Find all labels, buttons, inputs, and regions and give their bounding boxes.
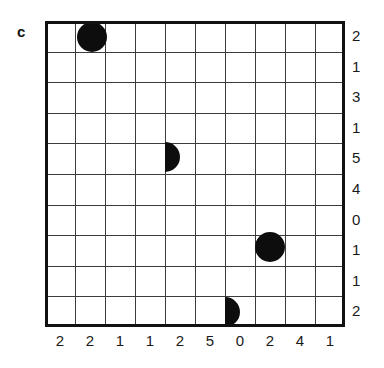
row-label: 1: [352, 235, 374, 266]
figure-panel: c 2131540112 2211250241: [0, 0, 384, 368]
column-label: 2: [255, 330, 285, 352]
column-label: 1: [315, 330, 345, 352]
row-label: 2: [352, 296, 374, 327]
column-label: 2: [165, 330, 195, 352]
panel-letter-label: c: [17, 24, 37, 40]
row-label-column: 2131540112: [352, 21, 376, 327]
row-label: 3: [352, 82, 374, 113]
row-label: 5: [352, 143, 374, 174]
column-label: 2: [75, 330, 105, 352]
column-label-row: 2211250241: [45, 330, 345, 352]
column-label: 2: [45, 330, 75, 352]
grid-marker-circle: [77, 22, 107, 52]
row-label: 4: [352, 174, 374, 205]
row-label: 1: [352, 52, 374, 83]
grid-marker-circle: [255, 232, 285, 262]
row-label: 1: [352, 113, 374, 144]
row-label: 2: [352, 21, 374, 52]
row-label: 1: [352, 266, 374, 297]
column-label: 1: [105, 330, 135, 352]
grid-plot: [45, 21, 345, 327]
column-label: 1: [135, 330, 165, 352]
column-label: 0: [225, 330, 255, 352]
column-label: 5: [195, 330, 225, 352]
row-label: 0: [352, 205, 374, 236]
grid-svg: [45, 21, 345, 327]
column-label: 4: [285, 330, 315, 352]
